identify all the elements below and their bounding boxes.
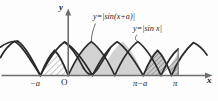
math-figure: y=|sin(x+a)| y=|sin x| y x −a O π−a π (0, 0, 218, 101)
x-tick-label-pi: π (173, 79, 177, 88)
leader-line-base (135, 35, 137, 42)
x-axis-label: x (207, 76, 212, 85)
y-axis-label: y (59, 3, 63, 12)
x-tick-label-minus-a: −a (30, 79, 40, 88)
left-hatched-region (40, 51, 68, 75)
equation-label-base-curve: y=|sin x| (133, 25, 162, 33)
origin-label: O (61, 78, 68, 87)
equation-label-shifted-curve: y=|sin(x+a)| (93, 13, 135, 21)
leader-line-shifted (91, 24, 95, 42)
x-tick-label-pi-minus-a: π−a (133, 79, 147, 88)
